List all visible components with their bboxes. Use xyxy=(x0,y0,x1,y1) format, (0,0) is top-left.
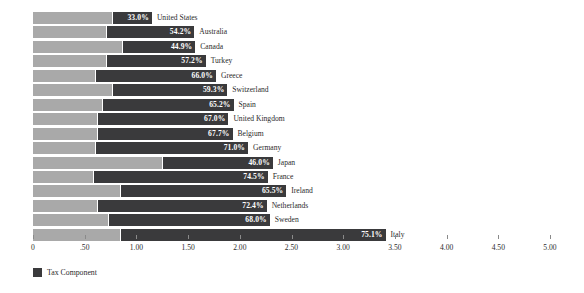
axis-tick-label: 4.50 xyxy=(492,243,505,252)
axis-tick-label: 2.00 xyxy=(233,243,246,252)
bar-category-label: Spain xyxy=(234,99,256,111)
bar-value-label: 44.9% xyxy=(123,41,195,53)
bar-value-label: 65.5% xyxy=(121,185,286,197)
bar-category-label: Turkey xyxy=(206,55,233,67)
bar-segment-base xyxy=(33,55,106,67)
bar-category-label: Sweden xyxy=(270,214,299,226)
x-axis: 0.501.001.502.002.503.003.504.004.505.00 xyxy=(0,235,584,261)
bar-category-label: Japan xyxy=(273,157,295,169)
bar-segment-base xyxy=(33,128,97,140)
bar-category-label: Switzerland xyxy=(227,84,268,96)
bar-segment-base xyxy=(33,26,106,38)
legend-swatch-tax-component xyxy=(33,268,42,277)
axis-tick xyxy=(136,235,137,239)
axis-tick-label: 5.00 xyxy=(543,243,556,252)
axis-tick-label: 3.50 xyxy=(388,243,401,252)
bar-category-label: United Kingdom xyxy=(228,113,284,125)
bar-value-label: 68.0% xyxy=(109,214,269,226)
bar-chart: 33.0%United States54.2%Australia44.9%Can… xyxy=(0,0,584,293)
bar-value-label: 46.0% xyxy=(163,157,273,169)
bar-value-label: 65.2% xyxy=(103,99,233,111)
bar-category-label: Belgium xyxy=(233,128,264,140)
bar-category-label: Australia xyxy=(194,26,227,38)
bar-category-label: France xyxy=(268,171,294,183)
axis-tick-label: 4.00 xyxy=(440,243,453,252)
bar-value-label: 74.5% xyxy=(94,171,268,183)
axis-tick-label: 0 xyxy=(31,243,35,252)
axis-tick-label: 2.50 xyxy=(285,243,298,252)
bar-category-label: Netherlands xyxy=(267,200,309,212)
bar-value-label: 57.2% xyxy=(107,55,205,67)
legend-label-tax-component: Tax Component xyxy=(47,268,97,277)
axis-tick xyxy=(343,235,344,239)
axis-tick-label: 1.50 xyxy=(181,243,194,252)
bar-category-label: Ireland xyxy=(286,185,313,197)
bar-segment-base xyxy=(33,157,162,169)
bar-segment-base xyxy=(33,99,102,111)
axis-tick xyxy=(395,235,396,239)
bar-segment-base xyxy=(33,200,97,212)
bar-segment-base xyxy=(33,214,108,226)
bar-category-label: Germany xyxy=(248,142,281,154)
bar-value-label: 67.0% xyxy=(98,113,228,125)
bar-value-label: 66.0% xyxy=(96,70,216,82)
bar-category-label: Canada xyxy=(195,41,223,53)
axis-tick-label: .50 xyxy=(80,243,90,252)
bar-segment-base xyxy=(33,84,112,96)
plot-area: 33.0%United States54.2%Australia44.9%Can… xyxy=(0,0,584,235)
bar-value-label: 54.2% xyxy=(107,26,194,38)
chart-legend: Tax Component xyxy=(33,268,97,277)
bar-category-label: Greece xyxy=(216,70,243,82)
bar-segment-base xyxy=(33,12,112,24)
bar-segment-base xyxy=(33,113,97,125)
axis-tick xyxy=(550,235,551,239)
axis-tick xyxy=(240,235,241,239)
axis-tick xyxy=(85,235,86,239)
axis-tick xyxy=(188,235,189,239)
axis-tick xyxy=(292,235,293,239)
bar-value-label: 71.0% xyxy=(96,142,248,154)
bar-segment-base xyxy=(33,171,93,183)
axis-tick-label: 3.00 xyxy=(337,243,350,252)
axis-tick xyxy=(33,235,34,239)
bar-value-label: 33.0% xyxy=(113,12,152,24)
bar-segment-base xyxy=(33,41,122,53)
axis-tick xyxy=(498,235,499,239)
axis-tick-label: 1.00 xyxy=(130,243,143,252)
bar-value-label: 67.7% xyxy=(98,128,232,140)
bar-value-label: 72.4% xyxy=(98,200,267,212)
bar-value-label: 59.3% xyxy=(113,84,228,96)
axis-tick xyxy=(447,235,448,239)
bar-segment-base xyxy=(33,185,120,197)
bar-segment-base xyxy=(33,70,95,82)
bar-segment-base xyxy=(33,142,95,154)
bar-category-label: United States xyxy=(152,12,198,24)
